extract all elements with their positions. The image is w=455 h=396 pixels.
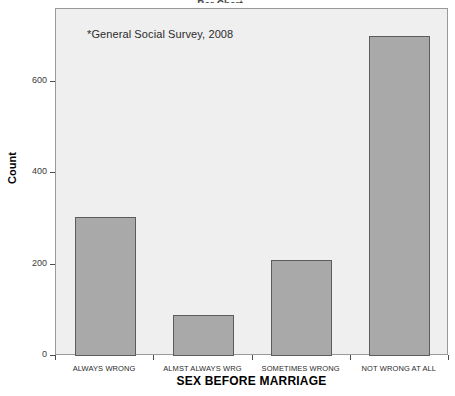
y-tick-mark [50,81,55,82]
y-axis: 0200400600 Count [0,0,55,396]
chart-title-cropped: Bar Chart [160,0,280,3]
y-tick-label: 0 [42,348,47,361]
plot-inner: *General Social Survey, 2008 [56,9,447,354]
x-tick-label: ALWAYS WRONG [55,364,153,373]
x-tick-mark [350,355,351,360]
x-tick-label: NOT WRONG AT ALL [350,364,448,373]
y-tick-mark [50,264,55,265]
x-tick-label: SOMETIMES WRONG [252,364,350,373]
y-tick: 200 [0,264,55,265]
y-tick-label: 600 [32,74,47,87]
bar [369,36,430,356]
y-tick-mark [50,172,55,173]
y-tick-label: 400 [32,165,47,178]
y-tick: 0 [0,355,55,356]
bar [75,217,136,356]
plot-area: *General Social Survey, 2008 [55,8,448,355]
bar [173,315,234,356]
x-tick-mark [252,355,253,360]
bar-chart: Bar Chart *General Social Survey, 2008 0… [0,0,455,396]
x-axis-title: SEX BEFORE MARRIAGE [55,374,448,388]
y-tick-label: 200 [32,257,47,270]
bar [271,260,332,356]
x-tick-mark [153,355,154,360]
y-tick: 600 [0,81,55,82]
x-tick-mark [448,355,449,360]
chart-annotation: *General Social Survey, 2008 [87,28,233,40]
y-axis-title: Count [6,138,18,198]
x-tick-mark [55,355,56,360]
x-tick-label: ALMST ALWAYS WRG [153,364,251,373]
